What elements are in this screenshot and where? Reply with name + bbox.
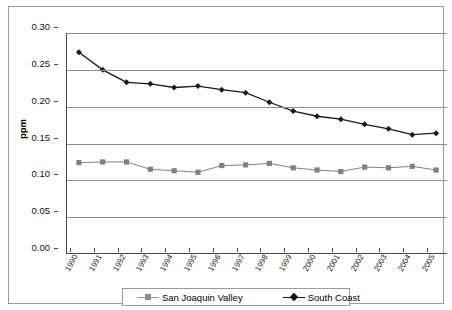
- series-line-san-joaquin-valley: [79, 162, 436, 172]
- legend-item-south-coast[interactable]: South Coast: [283, 292, 360, 303]
- square-marker-icon: [195, 170, 200, 175]
- square-marker-icon: [100, 159, 105, 164]
- square-marker-icon: [410, 164, 415, 169]
- square-marker-icon: [243, 162, 248, 167]
- diamond-marker-icon: [171, 85, 177, 91]
- y-axis-tick: [54, 138, 58, 139]
- y-axis-tick-label: 0.20: [10, 96, 50, 106]
- plot-area: [66, 33, 447, 254]
- diamond-marker-icon: [385, 126, 391, 132]
- diamond-marker-icon: [338, 116, 344, 122]
- y-axis-tick: [54, 101, 58, 102]
- square-marker-icon: [433, 167, 438, 172]
- y-axis-tick-label: 0.25: [10, 59, 50, 69]
- square-marker-icon: [148, 167, 153, 172]
- diamond-marker-icon: [362, 121, 368, 127]
- diamond-marker-icon: [433, 130, 439, 136]
- y-axis-tick: [54, 27, 58, 28]
- y-axis-tick-label: 0.05: [10, 206, 50, 216]
- legend-label-san-joaquin-valley: San Joaquin Valley: [162, 292, 243, 303]
- diamond-marker-icon: [219, 87, 225, 93]
- square-marker-icon: [362, 164, 367, 169]
- legend-label-south-coast: South Coast: [308, 292, 360, 303]
- diamond-marker-icon: [124, 79, 130, 85]
- square-marker-icon: [314, 167, 319, 172]
- y-axis-tick-label: 0.00: [10, 243, 50, 253]
- chart-legend: San Joaquin Valley South Coast: [122, 288, 350, 306]
- square-marker-icon: [124, 159, 129, 164]
- square-marker-icon: [338, 169, 343, 174]
- diamond-marker-icon: [266, 99, 272, 105]
- square-marker-icon: [76, 160, 81, 165]
- gridline: [67, 33, 447, 34]
- series-line-south-coast: [79, 52, 436, 135]
- legend-item-san-joaquin-valley[interactable]: San Joaquin Valley: [137, 292, 243, 303]
- y-axis-tick: [54, 64, 58, 65]
- y-axis-tick: [54, 174, 58, 175]
- square-marker-icon: [172, 168, 177, 173]
- y-axis-tick-label: 0.15: [10, 133, 50, 143]
- diamond-marker-icon: [283, 292, 305, 302]
- y-axis-tick: [54, 248, 58, 249]
- diamond-marker-icon: [243, 90, 249, 96]
- gridline: [67, 70, 447, 71]
- gridline: [67, 180, 447, 181]
- gridline: [67, 107, 447, 108]
- chart-screenshot: ppm 0.300.250.200.150.100.050.00 1990199…: [0, 0, 452, 310]
- diamond-marker-icon: [147, 81, 153, 87]
- square-marker-icon: [267, 161, 272, 166]
- square-marker-icon: [137, 292, 159, 302]
- diamond-marker-icon: [290, 108, 296, 114]
- y-axis-tick: [54, 211, 58, 212]
- diamond-marker-icon: [195, 83, 201, 89]
- y-axis-tick-label: 0.30: [10, 22, 50, 32]
- square-marker-icon: [219, 163, 224, 168]
- square-marker-icon: [291, 165, 296, 170]
- y-axis-tick-label: 0.10: [10, 169, 50, 179]
- gridline: [67, 217, 447, 218]
- square-marker-icon: [386, 165, 391, 170]
- diamond-marker-icon: [314, 113, 320, 119]
- chart-frame: ppm 0.300.250.200.150.100.050.00 1990199…: [8, 6, 444, 304]
- gridline: [67, 144, 447, 145]
- diamond-marker-icon: [409, 132, 415, 138]
